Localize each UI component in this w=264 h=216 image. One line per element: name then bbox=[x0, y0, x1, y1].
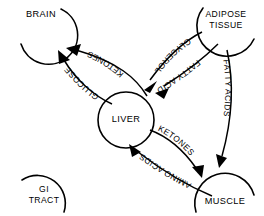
node-liver[interactable]: LIVER bbox=[98, 92, 154, 148]
node-adipose-tissue[interactable]: ADIPOSE TISSUE bbox=[197, 8, 254, 56]
diagram-canvas: BRAIN ADIPOSE TISSUE LIVER GI TRACT MUSC… bbox=[0, 0, 264, 216]
node-brain[interactable]: BRAIN bbox=[21, 9, 78, 64]
flow-fatty-acids-adipose-to-muscle[interactable]: FATTY ACIDS bbox=[216, 50, 233, 168]
flow-ketones-brain-label: KETONES bbox=[85, 49, 125, 80]
flow-glycerol-arrowhead bbox=[144, 81, 157, 93]
flow-ketones-brain-arrowhead bbox=[66, 44, 81, 56]
flow-fatty-acids-muscle-label: FATTY ACIDS bbox=[221, 59, 233, 118]
flow-amino-acids-label-text: AMINO ACIDS bbox=[137, 152, 193, 191]
flow-ketones-muscle-label: KETONES bbox=[157, 123, 197, 158]
flow-amino-acids-label: AMINO ACIDS bbox=[137, 152, 193, 191]
node-adipose-tissue-label-line1: ADIPOSE bbox=[205, 9, 246, 19]
node-gi-tract[interactable]: GI TRACT bbox=[22, 175, 65, 212]
node-muscle-label: MUSCLE bbox=[205, 196, 246, 206]
node-adipose-tissue-label-line2: TISSUE bbox=[209, 20, 242, 30]
node-gi-tract-label-line1: GI bbox=[39, 184, 49, 194]
flow-ketones-muscle-label-text: KETONES bbox=[157, 123, 197, 158]
flow-glucose-label: GLUCOSE bbox=[62, 64, 101, 102]
metabolic-fuel-flow-diagram: BRAIN ADIPOSE TISSUE LIVER GI TRACT MUSC… bbox=[0, 0, 264, 216]
flow-glucose-label-text: GLUCOSE bbox=[62, 64, 101, 102]
flow-fatty-acids-muscle-label-text: FATTY ACIDS bbox=[221, 59, 233, 118]
flow-ketones-brain-label-text: KETONES bbox=[85, 49, 125, 80]
node-liver-label: LIVER bbox=[112, 114, 141, 124]
flow-fatty-acids-muscle-arrowhead bbox=[216, 154, 227, 168]
node-gi-tract-label-line2: TRACT bbox=[29, 195, 60, 205]
flow-ketones-muscle-arrowhead bbox=[192, 165, 204, 178]
node-brain-label: BRAIN bbox=[26, 9, 56, 19]
